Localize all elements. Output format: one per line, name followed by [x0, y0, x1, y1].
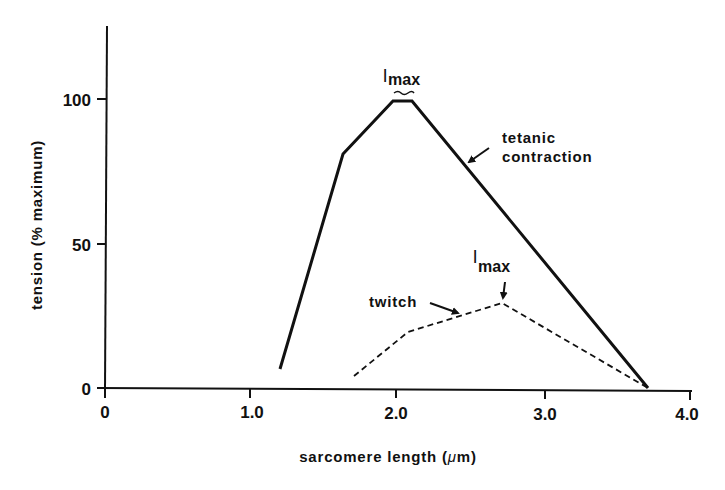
arrow-icon — [503, 282, 505, 298]
y-axis: 100 50 0 tension (% maximum) — [28, 26, 107, 399]
x-tick-label-0: 0 — [100, 403, 109, 422]
x-tick-label-3: 3.0 — [533, 405, 557, 424]
lmax-sub: max — [478, 258, 510, 275]
x-axis: 0 1.0 2.0 3.0 4.0 sarcomere length (μm) — [97, 388, 699, 465]
arrow-icon — [430, 303, 458, 313]
y-tick-label-100: 100 — [63, 91, 91, 110]
lmax-l: l — [473, 246, 477, 267]
x-tick-label-1: 1.0 — [240, 403, 264, 422]
y-tick-label-0: 0 — [82, 380, 91, 399]
lmax-l: l — [383, 65, 387, 86]
tetanic-curve — [280, 101, 648, 388]
twitch-label: twitch — [369, 293, 417, 310]
twitch-curve — [354, 303, 648, 388]
tetanic-label-line2: contraction — [502, 148, 592, 165]
twitch-annotation: twitch — [369, 293, 458, 313]
tetanic-label-line1: tetanic — [502, 129, 556, 146]
x-axis-label: sarcomere length (μm) — [299, 448, 477, 465]
y-axis-label: tension (% maximum) — [28, 140, 45, 310]
tetanic-annotation: tetanic contraction — [469, 129, 592, 165]
length-tension-chart: 100 50 0 tension (% maximum) 0 1.0 2.0 3… — [0, 0, 725, 490]
x-tick-label-2: 2.0 — [384, 404, 408, 423]
y-tick-label-50: 50 — [72, 236, 91, 255]
tetanic-lmax-annotation: l max — [383, 65, 420, 95]
tilde-bracket-icon — [394, 92, 414, 95]
x-tick-label-4: 4.0 — [675, 405, 699, 424]
arrow-icon — [469, 148, 489, 162]
lmax-sub: max — [388, 71, 420, 88]
twitch-lmax-annotation: l max — [473, 246, 510, 298]
mu-symbol: μ — [447, 448, 457, 465]
